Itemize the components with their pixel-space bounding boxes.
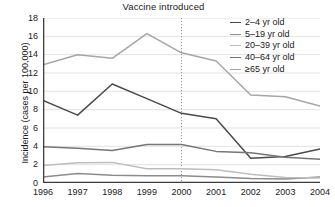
y-axis-tick-label: 2	[14, 160, 38, 169]
y-axis-tick-label: 10	[14, 87, 38, 96]
y-axis-tick-label: 14	[14, 50, 38, 59]
legend-item-label: 2–4 yr old	[245, 18, 285, 27]
x-axis-tick-label: 2004	[300, 187, 335, 198]
legend-item: 5–19 yr old	[230, 29, 326, 41]
y-axis-tick-labels: 024681012141618	[12, 18, 38, 183]
chart-title: Vaccine introduced	[0, 1, 327, 12]
legend-line-swatch	[230, 69, 241, 70]
y-axis-tick-label: 12	[14, 69, 38, 78]
y-axis-tick-label: 8	[14, 105, 38, 114]
legend-item-label: 5–19 yr old	[245, 30, 290, 39]
legend-item: ≥65 yr old	[230, 63, 326, 75]
y-axis-tick-label: 18	[14, 14, 38, 23]
x-axis-tick-labels: 199619971998199920002001200220032004	[43, 187, 320, 201]
legend-item-label: 20–39 yr old	[245, 41, 295, 50]
y-axis-tick-label: 4	[14, 142, 38, 151]
legend-item-label: 40–64 yr old	[245, 53, 295, 62]
legend-item: 20–39 yr old	[230, 40, 326, 52]
legend-item-label: ≥65 yr old	[245, 65, 284, 74]
y-axis-tick-label: 16	[14, 32, 38, 41]
chart-legend: 2–4 yr old5–19 yr old20–39 yr old40–64 y…	[230, 17, 326, 75]
legend-item: 40–64 yr old	[230, 52, 326, 64]
legend-item: 2–4 yr old	[230, 17, 326, 29]
legend-line-swatch	[230, 45, 241, 46]
y-axis-tick-label: 6	[14, 124, 38, 133]
legend-line-swatch	[230, 57, 241, 58]
legend-line-swatch	[230, 22, 241, 23]
legend-line-swatch	[230, 34, 241, 35]
